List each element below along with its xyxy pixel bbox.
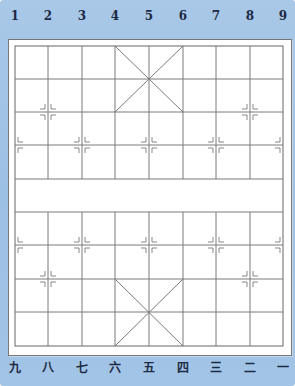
column-label-yi: 一 bbox=[273, 358, 293, 375]
column-label-er: 二 bbox=[240, 358, 260, 375]
xiangqi-board: 1 2 3 4 5 6 7 8 9 bbox=[0, 0, 295, 386]
column-label-liu: 六 bbox=[105, 358, 125, 375]
column-label-wu: 五 bbox=[139, 358, 159, 375]
column-label-jiu: 九 bbox=[5, 358, 25, 375]
board-grid[interactable] bbox=[0, 0, 295, 386]
bottom-column-labels: 九 八 七 六 五 四 三 二 一 bbox=[0, 358, 295, 378]
column-label-qi: 七 bbox=[72, 358, 92, 375]
column-label-san: 三 bbox=[206, 358, 226, 375]
column-label-ba: 八 bbox=[38, 358, 58, 375]
column-label-si: 四 bbox=[173, 358, 193, 375]
